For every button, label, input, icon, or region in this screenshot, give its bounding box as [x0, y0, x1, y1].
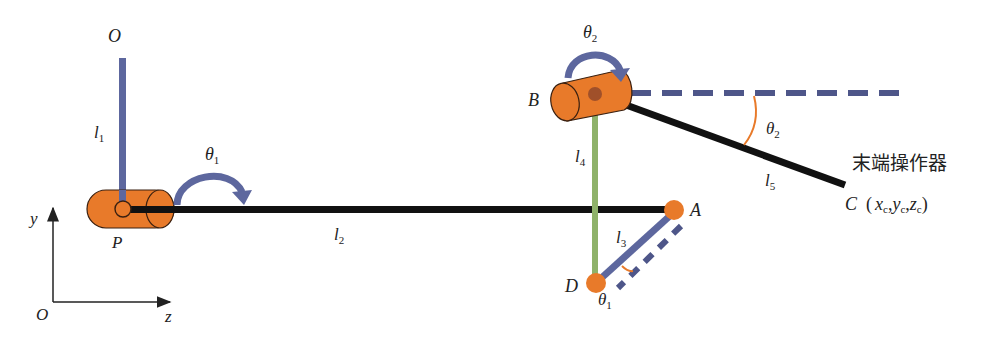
link-l4: l4: [575, 98, 598, 283]
link-l1-label: l1: [94, 123, 104, 144]
joint-p-cylinder: P: [87, 190, 176, 252]
point-d-label: D: [564, 276, 578, 296]
theta1-d-label: θ1: [598, 290, 612, 311]
point-o-top-label: O: [108, 26, 121, 46]
link-l5: θ2 l5: [596, 94, 845, 192]
rotation-arrow-theta2: θ2: [568, 22, 630, 82]
axis-z-label: z: [164, 307, 172, 326]
theta2-joint-label: θ2: [583, 22, 597, 44]
link-l3: l3 θ1: [597, 213, 681, 311]
joint-a: A: [664, 200, 702, 220]
theta2-angle-arc: [744, 96, 756, 145]
end-effector: 末端操作器 C (xc,yc,zc): [845, 152, 947, 215]
point-c-label: C: [845, 194, 858, 214]
axis-y-label: y: [28, 209, 38, 228]
theta2-end-label: θ2: [766, 119, 780, 140]
link-l2-label: l2: [334, 225, 344, 246]
link-l1: O l1: [94, 26, 126, 208]
point-a-label: A: [689, 200, 702, 220]
end-effector-label: 末端操作器: [852, 152, 947, 174]
joint-b-cylinder: B: [528, 70, 632, 123]
link-l4-label: l4: [575, 147, 586, 168]
rotation-arrow-theta1: θ1: [177, 144, 252, 205]
theta1-joint-label: θ1: [205, 144, 219, 166]
axis-origin-label: O: [36, 305, 48, 324]
link-l5-label: l5: [765, 171, 776, 192]
robot-arm-diagram: O y z O l1 l2 P θ1 l4 θ2 l5: [0, 0, 995, 341]
end-effector-coordinates: (xc,yc,zc): [866, 194, 928, 215]
theta1-angle-arc-d: [622, 266, 633, 271]
point-b-label: B: [528, 90, 539, 110]
point-p-label: P: [111, 233, 122, 252]
link-l3-label: l3: [616, 228, 627, 249]
